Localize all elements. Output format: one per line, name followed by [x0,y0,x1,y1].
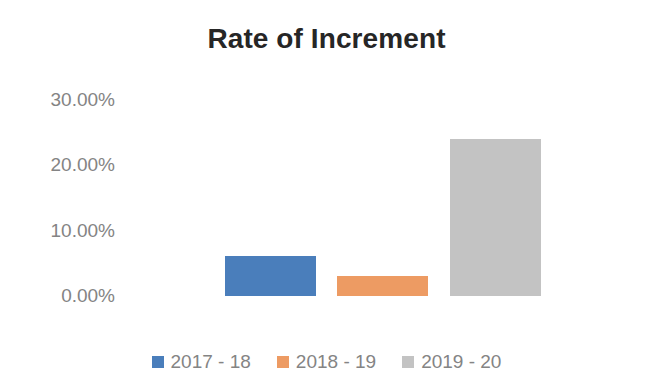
y-axis-tick-label-20: 20.00% [15,154,115,176]
y-axis-tick-label-10: 10.00% [15,220,115,242]
bar-2019-20 [450,139,541,296]
legend-item-2018-19[interactable]: 2018 - 19 [277,351,376,373]
y-axis-tick-label-0: 0.00% [15,285,115,307]
legend-swatch-icon-2019-20 [402,356,414,368]
bar-2017-18 [225,256,316,296]
legend-swatch-icon-2018-19 [277,356,289,368]
y-axis-tick-label-30: 30.00% [15,89,115,111]
plot-area: 30.00% 20.00% 10.00% 0.00% [0,0,653,330]
chart-legend: 2017 - 18 2018 - 19 2019 - 20 [0,351,653,373]
bar-2018-19 [337,276,428,296]
legend-swatch-icon-2017-18 [152,356,164,368]
legend-item-2019-20[interactable]: 2019 - 20 [402,351,501,373]
legend-item-2017-18[interactable]: 2017 - 18 [152,351,251,373]
legend-label-2018-19: 2018 - 19 [296,351,376,373]
legend-label-2019-20: 2019 - 20 [421,351,501,373]
legend-label-2017-18: 2017 - 18 [171,351,251,373]
bar-chart: Rate of Increment 30.00% 20.00% 10.00% 0… [0,0,653,384]
